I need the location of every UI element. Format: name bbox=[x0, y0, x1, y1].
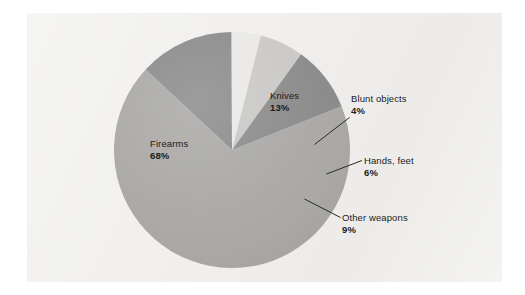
slice-label-knives: Knives 13% bbox=[270, 90, 299, 113]
slice-label-blunt-objects-name: Blunt objects bbox=[351, 93, 407, 105]
slice-label-firearms: Firearms 68% bbox=[150, 138, 188, 161]
slice-label-hands-feet-name: Hands, feet bbox=[364, 155, 414, 167]
slice-label-knives-name: Knives bbox=[270, 90, 299, 102]
slice-label-blunt-objects-value: 4% bbox=[351, 105, 407, 117]
slice-label-other-weapons: Other weapons 9% bbox=[342, 212, 408, 235]
pie-chart-figure: Firearms 68% Knives 13% Blunt objects 4%… bbox=[0, 0, 525, 295]
slice-label-blunt-objects: Blunt objects 4% bbox=[351, 93, 407, 116]
slice-label-knives-value: 13% bbox=[270, 102, 299, 114]
slice-label-firearms-name: Firearms bbox=[150, 138, 188, 150]
slice-label-hands-feet-value: 6% bbox=[364, 167, 414, 179]
pie-chart-svg bbox=[0, 0, 525, 295]
slice-label-other-weapons-value: 9% bbox=[342, 224, 408, 236]
slice-label-hands-feet: Hands, feet 6% bbox=[364, 155, 414, 178]
slice-label-other-weapons-name: Other weapons bbox=[342, 212, 408, 224]
slice-label-firearms-value: 68% bbox=[150, 150, 188, 162]
